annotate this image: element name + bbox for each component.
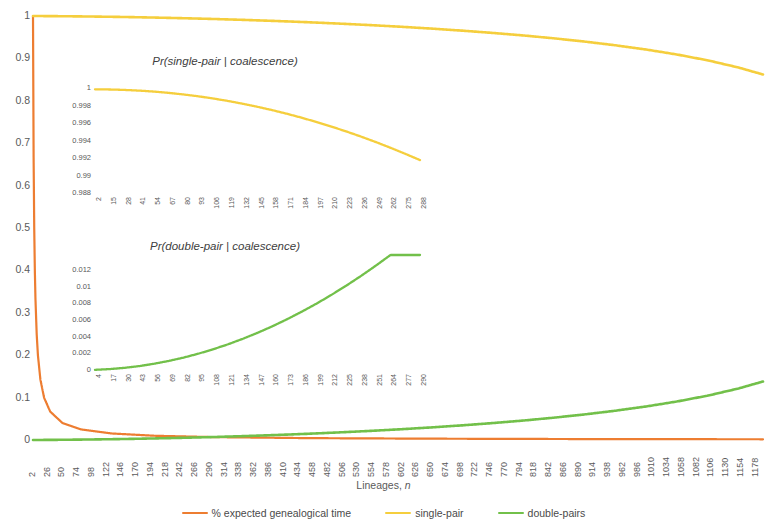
- inset-double-y-tick-label: 0.006: [72, 316, 91, 324]
- inset-single-pair-plot: [95, 88, 420, 193]
- main-x-tick-label: 602: [396, 462, 406, 477]
- inset-single-x-tick-label: 145: [258, 197, 265, 209]
- legend-swatch-icon: [182, 512, 208, 515]
- main-x-tick-label: 218: [160, 462, 170, 477]
- inset-single-x-tick-label: 67: [169, 197, 176, 205]
- inset-single-x-tick-label: 262: [390, 197, 397, 209]
- inset-single-x-tick-label: 236: [361, 197, 368, 209]
- main-x-tick-label: 578: [381, 462, 391, 477]
- x-axis-title-variable: n: [405, 479, 411, 491]
- inset-single-y-tick-label: 0.996: [72, 119, 91, 127]
- inset-double-x-tick-label: 277: [405, 374, 412, 386]
- main-x-tick-label: 1010: [646, 457, 656, 477]
- chart-legend: % expected genealogical timesingle-paird…: [0, 507, 767, 519]
- inset-single-y-tick-label: 0.994: [72, 137, 91, 145]
- inset-single-y-tick-label: 0.992: [72, 154, 91, 162]
- main-x-tick-label: 98: [86, 467, 96, 477]
- inset-single-pair: Pr(single-pair | coalescence) 10.9980.99…: [55, 55, 425, 225]
- inset-double-x-tick-label: 95: [198, 374, 205, 382]
- inset-single-x-tick-label: 223: [346, 197, 353, 209]
- legend-item[interactable]: single-pair: [385, 507, 463, 519]
- inset-single-x-tick-label: 275: [405, 197, 412, 209]
- inset-double-x-tick-label: 17: [110, 374, 117, 382]
- inset-double-pair: Pr(double-pair | coalescence) 0.0120.010…: [55, 240, 425, 420]
- legend-item[interactable]: double-pairs: [498, 507, 586, 519]
- inset-double-x-tick-label: 186: [302, 374, 309, 386]
- inset-single-x-tick-label: 2: [95, 197, 102, 201]
- legend-swatch-icon: [385, 512, 411, 515]
- main-x-tick-label: 122: [101, 462, 111, 477]
- inset-double-y-tick-label: 0.008: [72, 299, 91, 307]
- inset-double-pair-plot: [95, 270, 420, 370]
- inset-single-x-tick-label: 210: [331, 197, 338, 209]
- inset-double-x-tick-label: 199: [317, 374, 324, 386]
- main-x-tick-label: 938: [602, 462, 612, 477]
- inset-double-x-tick-label: 212: [331, 374, 338, 386]
- inset-double-x-tick-label: 147: [258, 374, 265, 386]
- main-x-tick-label: 170: [130, 462, 140, 477]
- main-x-tick-label: 242: [174, 462, 184, 477]
- main-x-tick-label: 50: [56, 467, 66, 477]
- inset-double-x-tick-label: 290: [420, 374, 427, 386]
- main-x-tick-label: 770: [499, 462, 509, 477]
- inset-double-y-tick-label: 0.012: [72, 266, 91, 274]
- legend-label: single-pair: [415, 507, 463, 519]
- main-x-tick-label: 146: [115, 462, 125, 477]
- main-x-tick-label: 1082: [691, 457, 701, 477]
- main-x-tick-label: 530: [351, 462, 361, 477]
- main-x-tick-label: 962: [617, 462, 627, 477]
- main-x-tick-label: 1178: [750, 458, 760, 477]
- main-x-tick-label: 650: [425, 462, 435, 477]
- inset-single-x-tick-label: 184: [302, 197, 309, 209]
- main-x-tick-label: 1130: [720, 458, 730, 477]
- main-x-tick-label: 290: [204, 462, 214, 477]
- main-x-tick-label: 482: [322, 462, 332, 477]
- main-x-tick-label: 890: [573, 462, 583, 477]
- inset-double-x-tick-label: 30: [125, 374, 132, 382]
- main-x-tick-label: 362: [248, 462, 258, 477]
- main-x-tick-label: 794: [514, 462, 524, 477]
- legend-item[interactable]: % expected genealogical time: [182, 507, 352, 519]
- inset-double-y-tick-label: 0.002: [72, 349, 91, 357]
- main-x-tick-label: 386: [263, 462, 273, 477]
- main-x-tick-label: 818: [528, 462, 538, 477]
- inset-single-x-tick-label: 15: [110, 197, 117, 205]
- inset-single-x-tick-label: 28: [125, 197, 132, 205]
- main-x-tick-label: 866: [558, 462, 568, 477]
- inset-single-x-tick-label: 249: [376, 197, 383, 209]
- inset-single-x-tick-label: 41: [139, 197, 146, 205]
- inset-double-y-tick-label: 0.01: [76, 283, 91, 291]
- legend-swatch-icon: [498, 512, 524, 515]
- main-x-tick-label: 914: [587, 462, 597, 477]
- inset-double-x-tick-label: 160: [272, 374, 279, 386]
- legend-label: double-pairs: [528, 507, 586, 519]
- inset-single-y-tick-label: 0.998: [72, 102, 91, 110]
- inset-single-x-tick-label: 93: [198, 197, 205, 205]
- inset-single-x-tick-label: 106: [213, 197, 220, 209]
- inset-double-x-tick-label: 108: [213, 374, 220, 386]
- inset-double-y-tick-label: 0: [87, 366, 91, 374]
- inset-double-x-tick-label: 264: [390, 374, 397, 386]
- main-x-tick-label: 314: [219, 462, 229, 477]
- x-axis-title: Lineages, n: [0, 479, 767, 491]
- inset-single-x-tick-label: 288: [420, 197, 427, 209]
- main-x-tick-label: 2: [27, 472, 37, 477]
- chart-container: 10.90.80.70.60.50.40.30.20.10 2265074981…: [0, 0, 767, 528]
- main-x-tick-label: 194: [145, 462, 155, 477]
- inset-single-pair-title: Pr(single-pair | coalescence): [55, 55, 395, 67]
- main-x-tick-label: 698: [455, 462, 465, 477]
- inset-double-x-tick-label: 82: [184, 374, 191, 382]
- inset-double-x-tick-label: 121: [228, 374, 235, 386]
- main-x-tick-label: 842: [543, 462, 553, 477]
- legend-label: % expected genealogical time: [212, 507, 352, 519]
- main-x-tick-label: 722: [469, 462, 479, 477]
- inset-single-y-tick-label: 0.988: [72, 189, 91, 197]
- inset-single-x-tick-label: 54: [154, 197, 161, 205]
- main-x-tick-label: 626: [410, 462, 420, 477]
- inset-single-x-tick-label: 80: [184, 197, 191, 205]
- inset-double-pair-title: Pr(double-pair | coalescence): [55, 240, 395, 252]
- x-axis-title-text: Lineages,: [356, 479, 404, 491]
- inset-double-x-tick-label: 225: [346, 374, 353, 386]
- main-x-tick-label: 434: [292, 462, 302, 477]
- inset-single-y-tick-label: 0.99: [76, 172, 91, 180]
